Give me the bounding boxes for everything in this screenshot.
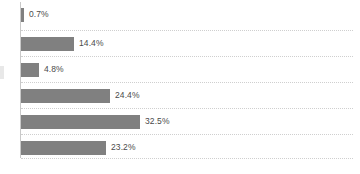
bar[interactable] [21,141,106,155]
bar-value-label: 14.4% [79,36,104,51]
bar-value-label: 4.8% [44,62,64,77]
bar-row: 23.2% [21,141,353,166]
bar[interactable] [21,37,74,51]
bar[interactable] [21,8,24,22]
bar-row: 0.7% [21,8,353,33]
bar[interactable] [21,89,110,103]
bar-row: 32.5% [21,115,353,140]
bar-value-label: 0.7% [29,7,49,22]
plot-area: 0.7%14.4%4.8%24.4%32.5%23.2% [21,4,353,158]
bar[interactable] [21,115,140,129]
bar-row: 4.8% [21,63,353,88]
bar-row: 14.4% [21,37,353,62]
bar[interactable] [21,63,39,77]
bar-row: 24.4% [21,89,353,114]
bar-value-label: 32.5% [145,114,170,129]
bar-chart: 0.7%14.4%4.8%24.4%32.5%23.2% [0,0,360,174]
bar-value-label: 24.4% [115,88,140,103]
bar-value-label: 23.2% [111,140,136,155]
left-edge-artifact [0,66,4,79]
